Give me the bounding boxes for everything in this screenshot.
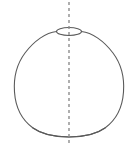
figure-canvas: Dome-shaped solid of revolution with cir… — [0, 0, 138, 149]
dome-body-outline — [14, 32, 123, 138]
solid-of-revolution-diagram: Dome-shaped solid of revolution with cir… — [0, 0, 138, 149]
